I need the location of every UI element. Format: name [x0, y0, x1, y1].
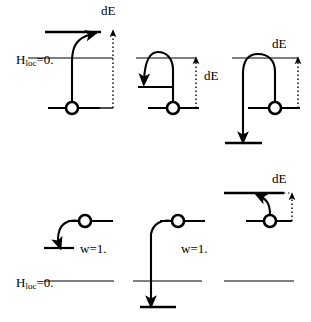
hloc-symbol: H [16, 275, 25, 290]
transition-arrow [144, 52, 173, 106]
panel-top-middle [136, 52, 199, 114]
transition-arrow [243, 54, 275, 138]
label-dE-top-left: dE [101, 4, 115, 17]
label-weight-left: w=1. [80, 242, 106, 255]
transition-arrow [260, 196, 270, 215]
hloc-value: =0. [36, 52, 53, 67]
energy-level-diagram: dE dE dE dE Hloc=0. Hloc=0. w=1. w=1. [0, 0, 311, 322]
label-hloc-bottom: Hloc=0. [16, 276, 53, 291]
label-dE-bottom-right: dE [272, 172, 286, 185]
electron-marker [167, 102, 179, 114]
label-weight-middle: w=1. [181, 242, 207, 255]
panel-bottom-right [224, 193, 294, 281]
hloc-symbol: H [16, 52, 25, 67]
hloc-subscript: loc [25, 281, 36, 291]
transition-arrow [58, 221, 79, 244]
label-hloc-top: Hloc=0. [16, 53, 53, 68]
diagram-canvas [0, 0, 311, 322]
electron-marker [79, 215, 91, 227]
panel-bottom-middle [133, 215, 205, 307]
label-dE-top-middle: dE [204, 69, 218, 82]
hloc-value: =0. [36, 275, 53, 290]
transition-arrow [151, 221, 172, 302]
electron-marker [66, 102, 78, 114]
electron-marker [172, 215, 184, 227]
panel-top-right [225, 54, 300, 143]
label-dE-top-right: dE [272, 37, 286, 50]
electron-marker [264, 215, 276, 227]
hloc-subscript: loc [25, 58, 36, 68]
panel-top-left [28, 32, 113, 114]
electron-marker [269, 102, 281, 114]
transition-arrow [72, 34, 92, 106]
